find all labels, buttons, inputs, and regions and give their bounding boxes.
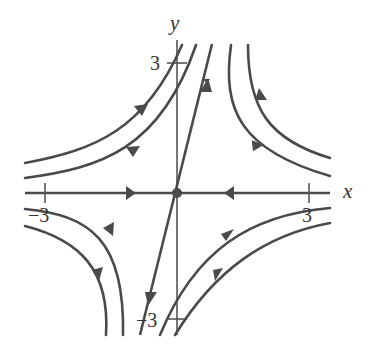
y-tick-label-neg3: −3 <box>136 309 157 331</box>
arrow-icon <box>248 140 264 154</box>
arrow-left-icon <box>224 186 234 200</box>
trajectory-lower-right-1 <box>160 208 330 335</box>
arrow-icon <box>255 88 267 100</box>
x-tick-label-neg3: −3 <box>28 204 49 226</box>
trajectory-upper-right-2 <box>248 45 330 158</box>
equilibrium-point <box>172 188 182 198</box>
trajectory-upper-right-1 <box>229 45 330 176</box>
y-tick-label-3: 3 <box>150 52 160 74</box>
trajectory-lower-left-2 <box>25 226 106 335</box>
x-tick-label-3: 3 <box>302 204 312 226</box>
y-axis-label: y <box>168 11 180 35</box>
arrow-right-icon <box>126 186 136 200</box>
trajectory-lower-right-2 <box>175 223 330 335</box>
phase-portrait: y x −3 3 3 −3 <box>0 0 373 355</box>
arrow-icon <box>126 146 140 157</box>
arrow-icon <box>103 222 114 236</box>
phase-portrait-canvas: y x −3 3 3 −3 <box>0 0 373 355</box>
x-axis-label: x <box>342 179 353 203</box>
